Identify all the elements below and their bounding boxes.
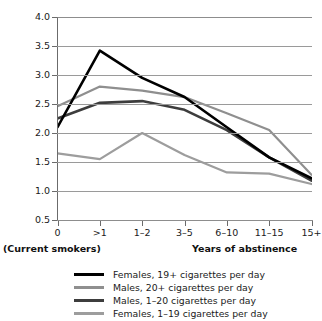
legend-item[interactable]: Females, 19+ cigarettes per day bbox=[74, 268, 322, 281]
legend-color-swatch bbox=[74, 286, 104, 289]
gridline bbox=[57, 133, 312, 134]
x-axis: 0>11–23–56–1011–1515+ bbox=[57, 227, 313, 241]
x-axis-tick-mark bbox=[269, 221, 270, 226]
chart-legend: Females, 19+ cigarettes per dayMales, 20… bbox=[74, 268, 322, 320]
mortality-ratio-line-chart: Mortality ratio 4.03.53.02.52.01.51.00.5… bbox=[0, 0, 322, 321]
x-axis-tick-label: 6–10 bbox=[215, 227, 238, 238]
legend-color-swatch bbox=[74, 312, 104, 315]
y-axis-tick-mark bbox=[52, 17, 57, 18]
y-axis-tick-mark bbox=[52, 191, 57, 192]
y-axis-tick-label: 2.0 bbox=[4, 127, 50, 138]
gridline bbox=[57, 191, 312, 192]
x-axis-caption-left: (Current smokers) bbox=[3, 243, 101, 254]
y-axis: Mortality ratio 4.03.53.02.52.01.51.00.5 bbox=[0, 17, 50, 220]
y-axis-tick-label: 1.0 bbox=[4, 185, 50, 196]
legend-color-swatch bbox=[74, 273, 104, 276]
plot-frame bbox=[57, 17, 312, 220]
y-axis-tick-label: 1.5 bbox=[4, 156, 50, 167]
y-axis-tick-mark bbox=[52, 46, 57, 47]
x-axis-tick-label: 3–5 bbox=[176, 227, 193, 238]
x-axis-tick-label: 11–15 bbox=[255, 227, 284, 238]
y-axis-tick-label: 3.0 bbox=[4, 69, 50, 80]
legend-item-label: Males, 1–20 cigarettes per day bbox=[113, 294, 256, 307]
y-axis-tick-label: 4.0 bbox=[4, 11, 50, 22]
legend-color-swatch bbox=[74, 299, 104, 302]
y-axis-tick-label: 0.5 bbox=[4, 214, 50, 225]
y-axis-tick-label: 3.5 bbox=[4, 40, 50, 51]
y-axis-tick-mark bbox=[52, 75, 57, 76]
gridline bbox=[57, 75, 312, 76]
legend-item[interactable]: Females, 1–19 cigarettes per day bbox=[74, 307, 322, 320]
y-axis-tick-mark bbox=[52, 104, 57, 105]
x-axis-tick-label: 0 bbox=[54, 227, 60, 238]
legend-item[interactable]: Males, 1–20 cigarettes per day bbox=[74, 294, 322, 307]
x-axis-tick-mark bbox=[185, 221, 186, 226]
y-axis-tick-mark bbox=[52, 220, 57, 221]
plot-area bbox=[57, 17, 312, 220]
legend-item[interactable]: Males, 20+ cigarettes per day bbox=[74, 281, 322, 294]
x-axis-tick-label: 15+ bbox=[301, 227, 321, 238]
y-axis-tick-mark bbox=[52, 162, 57, 163]
legend-item-label: Males, 20+ cigarettes per day bbox=[113, 281, 253, 294]
x-axis-tick-label: >1 bbox=[93, 227, 107, 238]
x-axis-caption-right: Years of abstinence bbox=[192, 243, 297, 254]
gridline bbox=[57, 162, 312, 163]
x-axis-tick-mark bbox=[58, 221, 59, 226]
x-axis-tick-mark bbox=[227, 221, 228, 226]
gridline bbox=[57, 104, 312, 105]
x-axis-tick-label: 1–2 bbox=[134, 227, 151, 238]
legend-item-label: Females, 1–19 cigarettes per day bbox=[113, 307, 268, 320]
x-axis-tick-mark bbox=[142, 221, 143, 226]
gridline bbox=[57, 46, 312, 47]
x-axis-tick-mark bbox=[312, 221, 313, 226]
legend-item-label: Females, 19+ cigarettes per day bbox=[113, 268, 265, 281]
y-axis-tick-label: 2.5 bbox=[4, 98, 50, 109]
y-axis-tick-mark bbox=[52, 133, 57, 134]
x-axis-tick-mark bbox=[100, 221, 101, 226]
